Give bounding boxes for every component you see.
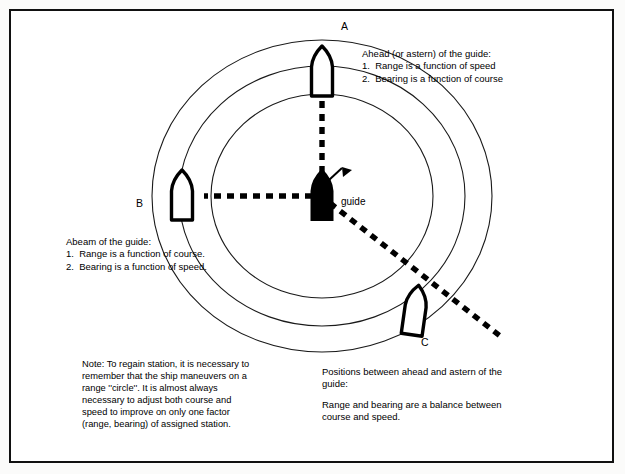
callout-between: Positions between ahead and astern of th… — [322, 366, 502, 424]
bearing-lines — [204, 100, 500, 336]
callout-abeam-item-1: 1. Range is a function of course. — [66, 248, 207, 260]
diagram-page: A B C guide Ahead (or astern) of the gui… — [0, 0, 625, 474]
callout-abeam-item-2: 2. Bearing is a function of speed. — [66, 261, 207, 273]
callout-between-line-1: Positions between ahead and astern of th… — [322, 366, 502, 378]
callout-note-line-6: (range, bearing) of assigned station. — [82, 418, 249, 430]
callout-ahead-item-2: 2. Bearing is a function of course — [362, 73, 503, 85]
ship-b — [172, 170, 193, 220]
label-guide: guide — [341, 196, 365, 207]
callout-note-line-4: necessary to adjust both course and — [82, 394, 249, 406]
callout-abeam-heading: Abeam of the guide: — [66, 236, 207, 248]
callout-abeam: Abeam of the guide: 1. Range is a functi… — [66, 236, 207, 273]
callout-note-line-3: range ''circle''. It is almost always — [82, 382, 249, 394]
callout-between-line-4: course and speed. — [322, 411, 502, 423]
label-ship-a: A — [341, 20, 348, 32]
callout-ahead-heading: Ahead (or astern) of the guide: — [362, 48, 503, 60]
ship-c — [401, 284, 429, 336]
callout-note-line-2: remember that the ship maneuvers on a — [82, 370, 249, 382]
callout-between-spacer — [322, 391, 502, 399]
callout-ahead: Ahead (or astern) of the guide: 1. Range… — [362, 48, 503, 85]
pennant-icon — [329, 167, 352, 180]
ship-a — [312, 46, 333, 96]
label-ship-b: B — [136, 197, 143, 209]
callout-note-line-5: speed to improve on only one factor — [82, 406, 249, 418]
callout-between-line-2: guide: — [322, 378, 502, 390]
callout-between-line-3: Range and bearing are a balance between — [322, 399, 502, 411]
callout-note: Note: To regain station, it is necessary… — [82, 358, 249, 431]
callout-note-line-1: Note: To regain station, it is necessary… — [82, 358, 249, 370]
label-ship-c: C — [421, 336, 429, 348]
callout-ahead-item-1: 1. Range is a function of speed — [362, 60, 503, 72]
